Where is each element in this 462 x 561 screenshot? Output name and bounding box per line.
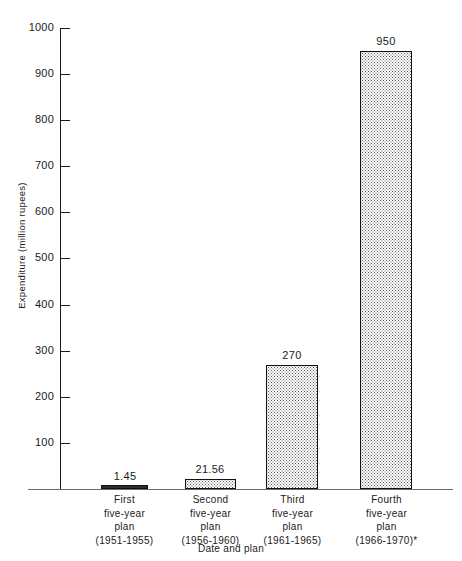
y-tick-300 [61, 351, 70, 352]
y-tick-800 [61, 120, 70, 121]
y-tick-label-300-wrap: 300 [0, 345, 54, 356]
y-tick-label-400-wrap: 400 [0, 299, 54, 310]
bar-fourth-plan [360, 51, 412, 489]
x-category-line-2: five-year [331, 507, 442, 521]
bar-third-plan [266, 365, 318, 489]
bar-value-second-plan: 21.56 [170, 463, 250, 475]
y-axis-title: Expenditure (million rupees) [16, 146, 27, 346]
y-tick-label-600-wrap: 600 [0, 206, 54, 217]
y-tick-700 [61, 166, 70, 167]
bar-chart-figure: 1000 900 800 700 600 500 400 300 200 100… [0, 0, 462, 561]
bar-first-plan [101, 485, 148, 489]
bar-value-first-plan: 1.45 [85, 470, 165, 482]
y-tick-600 [61, 212, 70, 213]
y-tick-500 [61, 258, 70, 259]
y-tick-1000 [61, 28, 70, 29]
x-category-label-fourth-plan: Fourth five-year plan (1966-1970)* [331, 493, 442, 547]
y-tick-label-800: 800 [10, 114, 54, 125]
x-axis-title: Date and plan [0, 543, 462, 554]
y-tick-label-300: 300 [10, 345, 54, 356]
y-tick-label-800-wrap: 800 [0, 114, 54, 125]
y-tick-label-700-wrap: 700 [0, 160, 54, 171]
y-tick-label-200: 200 [10, 391, 54, 402]
x-category-line-3: plan [331, 520, 442, 534]
y-tick-label-100-wrap: 100 [0, 437, 54, 448]
x-category-line-1: Fourth [331, 493, 442, 507]
y-tick-400 [61, 305, 70, 306]
y-tick-200 [61, 397, 70, 398]
y-tick-900 [61, 74, 70, 75]
y-tick-label-200-wrap: 200 [0, 391, 54, 402]
bar-value-third-plan: 270 [252, 349, 332, 361]
y-tick-label-900-wrap: 900 [0, 68, 54, 79]
y-tick-label-100: 100 [10, 437, 54, 448]
y-tick-100 [61, 443, 70, 444]
y-tick-label-900: 900 [10, 68, 54, 79]
y-tick-label-1000-wrap: 1000 [0, 22, 54, 33]
y-axis-line [60, 28, 61, 490]
y-tick-label-1000: 1000 [10, 22, 54, 33]
bar-value-fourth-plan: 950 [346, 35, 426, 47]
bar-second-plan [185, 479, 236, 489]
y-tick-label-500-wrap: 500 [0, 252, 54, 263]
x-axis-line [28, 489, 453, 490]
